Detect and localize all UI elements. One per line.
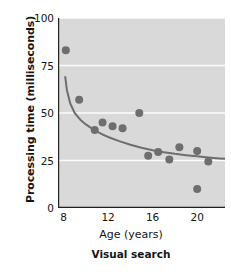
data-point: [144, 152, 152, 160]
data-point: [135, 109, 143, 117]
data-point: [193, 185, 201, 193]
figure-caption: Visual search: [46, 248, 216, 260]
data-point: [175, 143, 183, 151]
y-tick-label: 75: [26, 61, 54, 72]
chart-figure: Processing time (milliseconds) 025507510…: [0, 0, 231, 274]
x-tick-label: 8: [49, 212, 79, 223]
y-tick-label: 50: [26, 108, 54, 119]
y-tick-label: 25: [26, 156, 54, 167]
data-point: [91, 126, 99, 134]
x-tick-label: 16: [138, 212, 168, 223]
x-tick-label: 20: [182, 212, 212, 223]
data-point: [154, 148, 162, 156]
data-point: [204, 157, 212, 165]
plot-area: [58, 18, 225, 208]
data-point: [75, 96, 83, 104]
y-tick-label: 100: [26, 13, 54, 24]
x-tick-label: 12: [93, 212, 123, 223]
x-axis-tick-labels: 8121620: [0, 212, 231, 226]
data-point: [119, 124, 127, 132]
data-point: [165, 156, 173, 164]
scatter-plot-svg: [58, 18, 225, 208]
data-point: [62, 46, 70, 54]
data-point: [193, 147, 201, 155]
data-point: [99, 119, 107, 127]
data-point: [109, 122, 117, 130]
x-axis-title: Age (years): [46, 228, 216, 241]
